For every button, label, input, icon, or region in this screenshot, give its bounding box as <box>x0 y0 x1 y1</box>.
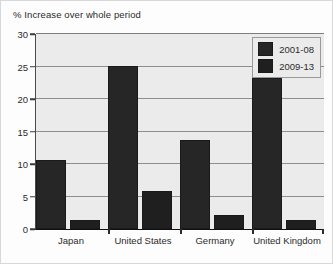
y-axis-tick-label: 10 <box>6 159 28 170</box>
bar <box>108 66 138 229</box>
y-axis-tick-label: 25 <box>6 61 28 72</box>
x-axis-category-label: United States <box>114 235 171 246</box>
x-axis-tick-mark <box>180 229 182 234</box>
legend-item-series-2[interactable]: 2009-13 <box>258 59 314 73</box>
y-axis-tick-label: 5 <box>6 191 28 202</box>
y-axis-tick-label: 20 <box>6 94 28 105</box>
legend-label: 2001-08 <box>279 44 314 55</box>
bar <box>286 220 316 229</box>
bar <box>214 215 244 229</box>
y-axis-tick-label: 0 <box>6 224 28 235</box>
chart-title: % Increase over whole period <box>13 9 141 20</box>
y-axis-tick-label: 30 <box>6 29 28 40</box>
bar <box>70 220 100 229</box>
x-axis-tick-mark <box>108 229 110 234</box>
x-axis-category-label: Germany <box>195 235 234 246</box>
legend-swatch-icon <box>258 42 273 56</box>
x-axis-category-label: Japan <box>58 235 84 246</box>
plot-area: 2001-08 2009-13 <box>35 34 324 230</box>
legend-item-series-1[interactable]: 2001-08 <box>258 42 314 56</box>
legend-swatch-icon <box>258 59 273 73</box>
bar <box>252 78 282 229</box>
legend-label: 2009-13 <box>279 61 314 72</box>
x-axis-tick-mark <box>322 229 324 234</box>
chart-legend: 2001-08 2009-13 <box>252 37 321 78</box>
gridline <box>36 33 324 34</box>
bar <box>142 191 172 229</box>
x-axis-category-label: United Kingdom <box>253 235 321 246</box>
chart-figure: % Increase over whole period 2001-08 200… <box>0 0 333 264</box>
y-axis-tick-label: 15 <box>6 126 28 137</box>
x-axis-tick-mark <box>252 229 254 234</box>
bar <box>36 160 66 229</box>
bar <box>180 140 210 229</box>
